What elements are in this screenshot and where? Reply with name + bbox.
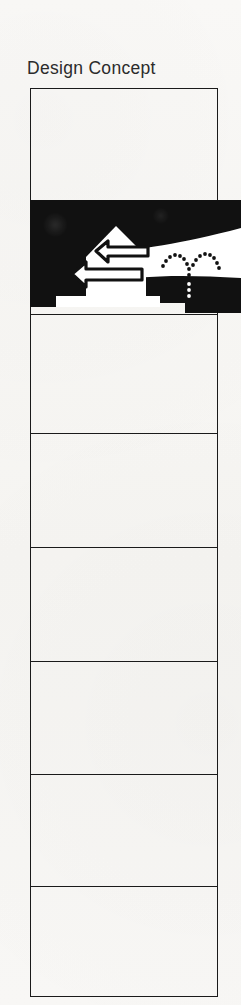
page-title: Design Concept: [27, 57, 156, 79]
table-row[interactable]: [31, 314, 217, 433]
table-row[interactable]: [31, 89, 217, 201]
table-row[interactable]: [31, 886, 217, 998]
table-row[interactable]: [31, 433, 217, 547]
table-row[interactable]: [31, 547, 217, 661]
table-row[interactable]: [31, 774, 217, 886]
table-row[interactable]: [31, 661, 217, 774]
house-base-block: [56, 296, 160, 307]
document-page: Design Concept: [0, 0, 241, 1005]
black-graphic-band: [30, 200, 241, 313]
dotted-tail: [187, 282, 191, 298]
band-left-black-edge: [30, 200, 56, 307]
